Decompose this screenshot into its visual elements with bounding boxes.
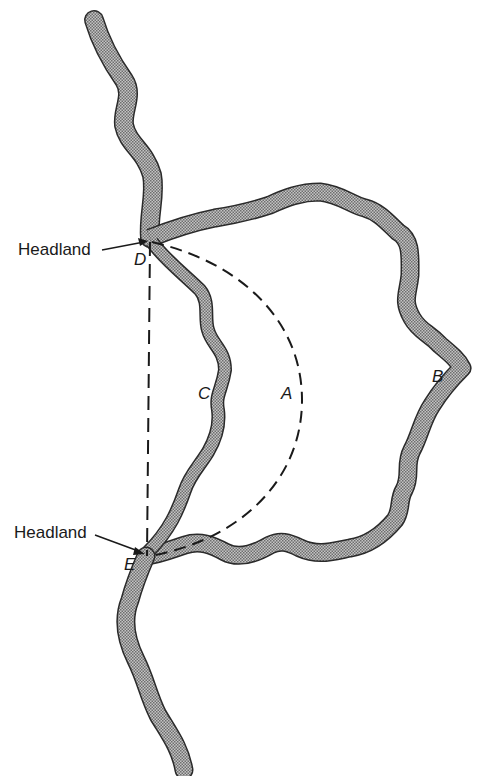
coastline-diagram: Headland D Headland E C A B: [0, 0, 504, 776]
chord-de: [147, 242, 150, 556]
point-e-label: E: [124, 555, 135, 575]
line-c-label: C: [198, 384, 210, 404]
coastline-b: [146, 192, 462, 556]
line-b-label: B: [432, 367, 443, 387]
north-coast: [94, 20, 153, 238]
headland-label-top: Headland: [18, 240, 91, 260]
line-a-label: A: [281, 384, 292, 404]
point-d-label: D: [134, 250, 146, 270]
south-coast: [126, 556, 184, 770]
headland-arrow-bottom: [95, 535, 145, 555]
headland-label-bottom: Headland: [14, 523, 87, 543]
diagram-canvas: [0, 0, 504, 776]
headland-arrow-top: [102, 238, 148, 250]
coastline-c: [148, 242, 225, 552]
